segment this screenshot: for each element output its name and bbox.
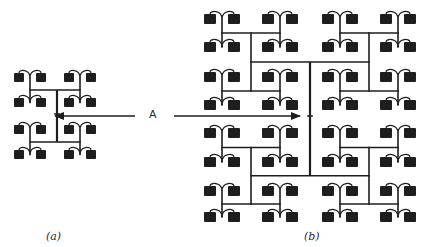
flip-flop-cell (322, 186, 334, 196)
flip-flop-cell (262, 186, 274, 196)
flip-flop-cell (346, 100, 358, 110)
flip-flop-cell (228, 128, 240, 138)
flip-flop-cell (204, 72, 216, 82)
flip-flop-cell (404, 186, 416, 196)
flip-flop-cell (322, 128, 334, 138)
flip-flop-cell (262, 100, 274, 110)
flip-flop-cell (204, 128, 216, 138)
flip-flop-cell (204, 212, 216, 222)
flip-flop-cell (404, 42, 416, 52)
flip-flop-cell (262, 212, 274, 222)
flip-flop-cell (322, 157, 334, 167)
h-tree-diagram-a (14, 70, 96, 159)
flip-flop-cell (64, 125, 74, 134)
flip-flop-cell (204, 186, 216, 196)
flip-flop-cell (346, 42, 358, 52)
flip-flop-cell (228, 14, 240, 24)
flip-flop-cell (286, 100, 298, 110)
flip-flop-cell (262, 42, 274, 52)
flip-flop-cell (14, 98, 24, 107)
flip-flop-cell (404, 157, 416, 167)
flip-flop-cell (204, 157, 216, 167)
flip-flop-cell (64, 73, 74, 82)
arrow-label-a: A (149, 108, 157, 121)
flip-flop-cell (228, 157, 240, 167)
flip-flop-cell (262, 128, 274, 138)
flip-flop-cell (36, 150, 46, 159)
caption-a: (a) (46, 230, 61, 243)
flip-flop-cell (322, 212, 334, 222)
flip-flop-cell (404, 100, 416, 110)
flip-flop-cell (346, 186, 358, 196)
flip-flop-cell (204, 42, 216, 52)
flip-flop-cell (322, 42, 334, 52)
flip-flop-cell (86, 125, 96, 134)
flip-flop-cell (286, 212, 298, 222)
flip-flop-cell (346, 157, 358, 167)
flip-flop-cell (228, 100, 240, 110)
h-tree-figure (0, 0, 426, 247)
flip-flop-cell (346, 212, 358, 222)
flip-flop-cell (404, 14, 416, 24)
caption-b: (b) (304, 230, 320, 243)
flip-flop-cell (322, 72, 334, 82)
flip-flop-cell (380, 186, 392, 196)
flip-flop-cell (228, 186, 240, 196)
flip-flop-cell (64, 98, 74, 107)
flip-flop-cell (86, 98, 96, 107)
flip-flop-cell (228, 72, 240, 82)
flip-flop-cell (346, 72, 358, 82)
flip-flop-cell (286, 157, 298, 167)
flip-flop-cell (36, 125, 46, 134)
flip-flop-cell (86, 150, 96, 159)
flip-flop-cell (204, 14, 216, 24)
flip-flop-cell (346, 128, 358, 138)
flip-flop-cell (286, 72, 298, 82)
flip-flop-cell (286, 186, 298, 196)
flip-flop-cell (404, 72, 416, 82)
flip-flop-cell (346, 14, 358, 24)
flip-flop-cell (404, 128, 416, 138)
flip-flop-cell (64, 150, 74, 159)
flip-flop-cell (380, 14, 392, 24)
flip-flop-cell (380, 212, 392, 222)
flip-flop-cell (380, 100, 392, 110)
flip-flop-cell (322, 14, 334, 24)
flip-flop-cell (404, 212, 416, 222)
flip-flop-cell (380, 72, 392, 82)
flip-flop-cell (286, 14, 298, 24)
flip-flop-cell (14, 150, 24, 159)
flip-flop-cell (380, 42, 392, 52)
flip-flop-cell (380, 128, 392, 138)
flip-flop-cell (262, 157, 274, 167)
flip-flop-cell (286, 42, 298, 52)
flip-flop-cell (286, 128, 298, 138)
flip-flop-cell (262, 14, 274, 24)
flip-flop-cell (322, 100, 334, 110)
flip-flop-cell (228, 212, 240, 222)
flip-flop-cell (14, 125, 24, 134)
flip-flop-cell (36, 98, 46, 107)
flip-flop-cell (86, 73, 96, 82)
flip-flop-cell (36, 73, 46, 82)
flip-flop-cell (380, 157, 392, 167)
flip-flop-cell (14, 73, 24, 82)
flip-flop-cell (204, 100, 216, 110)
flip-flop-cell (262, 72, 274, 82)
flip-flop-cell (228, 42, 240, 52)
